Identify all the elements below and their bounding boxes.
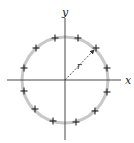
ring-charge-diagram: x y r [0,0,134,143]
y-axis-label: y [61,6,69,19]
x-axis-label: x [125,74,132,87]
plus-charge-icon [93,45,100,52]
plus-charge-icon [52,35,59,42]
radius-label: r [77,61,82,71]
